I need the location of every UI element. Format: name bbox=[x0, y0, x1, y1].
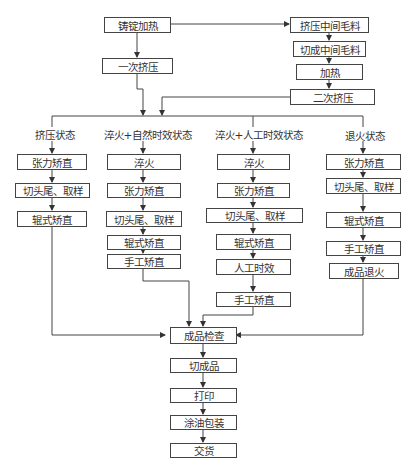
col3-label: 淬火+人工时效状态 bbox=[215, 127, 304, 142]
step-text: 张力矫直 bbox=[124, 183, 164, 198]
col3-step-tension-straighten: 张力矫直 bbox=[217, 183, 290, 198]
ingot-heating-box: 铸锭加热 bbox=[104, 17, 171, 33]
col2-label: 淬火+自然时效状态 bbox=[104, 127, 193, 142]
col4-label: 退火状态 bbox=[345, 128, 385, 143]
second-extrusion-text: 二次挤压 bbox=[313, 90, 353, 105]
first-extrusion-box: 一次挤压 bbox=[102, 58, 173, 74]
step-text: 切头尾、取样 bbox=[225, 208, 285, 223]
col3-step-quench: 淬火 bbox=[217, 154, 290, 170]
cut-intermediate-text: 切成中间毛料 bbox=[300, 42, 360, 57]
step-text: 辊式矫直 bbox=[234, 235, 274, 250]
col3-step-manual-straighten: 手工矫直 bbox=[216, 292, 291, 307]
delivery-box: 交货 bbox=[170, 443, 237, 458]
col4-step-roller-straighten: 辊式矫直 bbox=[326, 212, 401, 228]
col2-step-roller-straighten: 辊式矫直 bbox=[107, 235, 181, 250]
step-text: 打印 bbox=[194, 388, 214, 403]
step-text: 切头尾、取样 bbox=[114, 212, 174, 227]
col4-step-cut-sample: 切头尾、取样 bbox=[326, 178, 401, 194]
step-text: 交货 bbox=[194, 443, 214, 458]
step-text: 张力矫直 bbox=[344, 155, 384, 170]
step-text: 辊式矫直 bbox=[124, 235, 164, 250]
col2-step-manual-straighten: 手工矫直 bbox=[107, 254, 181, 269]
step-text: 淬火 bbox=[244, 155, 264, 170]
step-text: 淬火 bbox=[134, 155, 154, 170]
cut-intermediate-box: 切成中间毛料 bbox=[293, 41, 366, 57]
col1-step-roller-straighten: 辊式矫直 bbox=[17, 211, 87, 227]
extrude-intermediate-box: 挤压中间毛料 bbox=[290, 17, 369, 33]
step-text: 涂油包装 bbox=[184, 415, 224, 430]
second-extrusion-box: 二次挤压 bbox=[290, 89, 375, 105]
col1-step-tension-straighten: 张力矫直 bbox=[17, 154, 87, 170]
step-text: 人工时效 bbox=[234, 260, 274, 275]
printing-box: 打印 bbox=[170, 388, 237, 403]
col3-step-cut-sample: 切头尾、取样 bbox=[206, 208, 303, 223]
step-text: 切成品 bbox=[189, 358, 219, 373]
ingot-heating-text: 铸锭加热 bbox=[118, 18, 158, 33]
extrude-intermediate-text: 挤压中间毛料 bbox=[300, 18, 360, 33]
col2-step-quench: 淬火 bbox=[107, 154, 181, 170]
oiling-packing-box: 涂油包装 bbox=[170, 415, 237, 430]
step-text: 成品退火 bbox=[344, 264, 384, 279]
first-extrusion-text: 一次挤压 bbox=[118, 59, 158, 74]
step-text: 张力矫直 bbox=[32, 155, 72, 170]
step-text: 切头尾、取样 bbox=[334, 179, 394, 194]
cut-product-box: 切成品 bbox=[170, 358, 237, 373]
col4-step-manual-straighten: 手工矫直 bbox=[326, 241, 401, 256]
step-text: 手工矫直 bbox=[344, 241, 384, 256]
col1-label: 挤压状态 bbox=[35, 127, 75, 142]
step-text: 张力矫直 bbox=[234, 183, 274, 198]
col2-step-tension-straighten: 张力矫直 bbox=[107, 183, 181, 198]
heating-box: 加热 bbox=[296, 64, 363, 80]
heating-text: 加热 bbox=[320, 65, 340, 80]
step-text: 切头尾、取样 bbox=[23, 183, 83, 198]
step-text: 辊式矫直 bbox=[32, 212, 72, 227]
col3-step-artificial-aging: 人工时效 bbox=[216, 259, 291, 275]
step-text: 成品检查 bbox=[184, 328, 224, 343]
step-text: 辊式矫直 bbox=[344, 213, 384, 228]
final-inspection-box: 成品检查 bbox=[170, 327, 237, 344]
col4-step-final-anneal: 成品退火 bbox=[329, 263, 399, 279]
col1-step-cut-sample: 切头尾、取样 bbox=[15, 183, 90, 198]
col3-step-roller-straighten: 辊式矫直 bbox=[216, 234, 291, 250]
step-text: 手工矫直 bbox=[234, 292, 274, 307]
col4-step-tension-straighten: 张力矫直 bbox=[326, 154, 401, 170]
col2-step-cut-sample: 切头尾、取样 bbox=[106, 211, 182, 227]
step-text: 手工矫直 bbox=[124, 254, 164, 269]
